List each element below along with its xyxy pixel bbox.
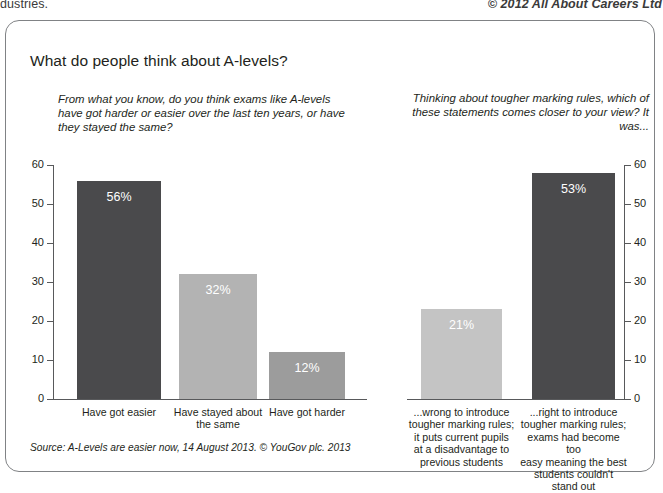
y-axis-tick-label: 40 — [634, 236, 660, 248]
x-axis-category-label: ...wrong to introducetougher marking rul… — [408, 406, 516, 468]
right-panel-subtitle: Thinking about tougher marking rules, wh… — [401, 91, 649, 134]
x-axis-category-label: Have got easier — [67, 406, 171, 418]
bar — [77, 181, 161, 399]
y-axis-tick — [47, 321, 53, 322]
bar — [269, 352, 345, 399]
y-axis-tick-label: 50 — [634, 197, 660, 209]
y-axis-tick — [47, 399, 53, 400]
y-axis-tick — [625, 360, 631, 361]
y-axis-tick-label: 60 — [18, 158, 44, 170]
source-note: Source: A-Levels are easier now, 14 Augu… — [30, 442, 351, 453]
y-axis-tick — [47, 204, 53, 205]
page-header-left-text: dustries. — [0, 0, 48, 11]
y-axis-tick-label: 30 — [634, 275, 660, 287]
y-axis-tick — [625, 204, 631, 205]
y-axis-tick-label: 30 — [18, 275, 44, 287]
y-axis-tick-label: 60 — [634, 158, 660, 170]
y-axis-tick — [47, 165, 53, 166]
y-axis-tick — [47, 282, 53, 283]
y-axis-line — [624, 165, 625, 400]
bar-value-label: 12% — [269, 361, 345, 375]
y-axis-tick — [47, 360, 53, 361]
bar-value-label: 56% — [77, 190, 161, 204]
bar-value-label: 32% — [179, 283, 257, 297]
y-axis-tick-label: 10 — [18, 353, 44, 365]
x-axis-category-label: Have got harder — [257, 406, 357, 418]
page-title: What do people think about A-levels? — [30, 52, 288, 70]
bar — [532, 173, 615, 399]
y-axis-tick — [625, 399, 631, 400]
y-axis-tick-label: 20 — [634, 314, 660, 326]
y-axis-tick-label: 10 — [634, 353, 660, 365]
x-axis-category-label: Have stayed aboutthe same — [166, 406, 270, 431]
y-axis-tick — [625, 321, 631, 322]
left-bar-chart: 605040302010056%Have got easier32%Have s… — [22, 147, 367, 407]
x-axis-line — [53, 399, 367, 400]
x-axis-line — [407, 399, 626, 400]
left-panel-subtitle: From what you know, do you think exams l… — [58, 92, 358, 135]
y-axis-tick — [47, 243, 53, 244]
y-axis-tick-label: 50 — [18, 197, 44, 209]
bar-value-label: 53% — [532, 182, 615, 196]
y-axis-tick-label: 20 — [18, 314, 44, 326]
y-axis-tick-label: 0 — [634, 392, 660, 404]
y-axis-tick-label: 0 — [18, 392, 44, 404]
y-axis-tick — [625, 282, 631, 283]
chart-card: What do people think about A-levels? Fro… — [5, 20, 655, 472]
y-axis-tick — [625, 165, 631, 166]
y-axis-line — [53, 165, 54, 400]
x-axis-category-label: ...right to introducetougher marking rul… — [520, 406, 628, 493]
y-axis-tick-label: 40 — [18, 236, 44, 248]
copyright-notice: © 2012 All About Careers Ltd — [488, 0, 662, 11]
right-bar-chart: 605040302010021%...wrong to introducetou… — [404, 147, 654, 407]
bar-value-label: 21% — [421, 318, 502, 332]
y-axis-tick — [625, 243, 631, 244]
